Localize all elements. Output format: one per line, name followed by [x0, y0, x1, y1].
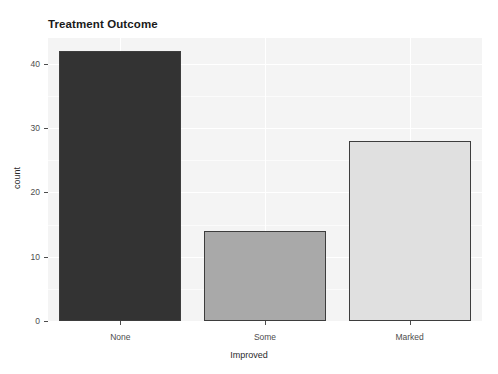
- y-tick-mark: [44, 192, 48, 193]
- y-tick-mark: [44, 321, 48, 322]
- y-tick-label: 10: [12, 252, 40, 262]
- x-tick-label-marked: Marked: [360, 332, 460, 342]
- bar-none: [59, 51, 181, 321]
- x-tick-label-some: Some: [215, 332, 315, 342]
- x-tick-mark: [410, 321, 411, 325]
- y-axis-title: count: [12, 167, 22, 189]
- bar-marked: [349, 141, 471, 321]
- y-tick-mark: [44, 64, 48, 65]
- y-tick-label: 30: [12, 123, 40, 133]
- y-tick-label: 40: [12, 59, 40, 69]
- y-tick-mark: [44, 128, 48, 129]
- y-tick-mark: [44, 257, 48, 258]
- x-tick-mark: [120, 321, 121, 325]
- bar-some: [204, 231, 326, 321]
- x-tick-mark: [265, 321, 266, 325]
- plot-panel: [48, 38, 482, 321]
- y-tick-label: 0: [12, 316, 40, 326]
- bar-chart: Treatment Outcome 010203040 NoneSomeMark…: [0, 0, 498, 374]
- chart-title: Treatment Outcome: [48, 18, 158, 30]
- x-axis-title: Improved: [0, 350, 498, 360]
- x-tick-label-none: None: [70, 332, 170, 342]
